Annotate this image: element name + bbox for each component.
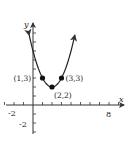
point-label: (3,3)	[66, 74, 84, 83]
parabola-chart: x y -2 8 -2 (1,3)(2,2)(3,3)	[0, 0, 132, 143]
labeled-points: (1,3)(2,2)(3,3)	[14, 74, 84, 100]
point-label: (1,3)	[14, 74, 32, 83]
x-tick-label-neg2: -2	[8, 109, 16, 118]
data-point	[59, 75, 64, 80]
y-axis-label: y	[23, 20, 29, 29]
y-tick-label-neg2: -2	[19, 120, 27, 129]
x-axis-label: x	[119, 95, 124, 104]
data-point	[40, 75, 45, 80]
point-label: (2,2)	[54, 91, 72, 100]
y-axis	[33, 23, 36, 134]
data-point	[49, 84, 54, 89]
x-axis	[5, 102, 125, 105]
x-tick-label-8: 8	[106, 110, 111, 119]
